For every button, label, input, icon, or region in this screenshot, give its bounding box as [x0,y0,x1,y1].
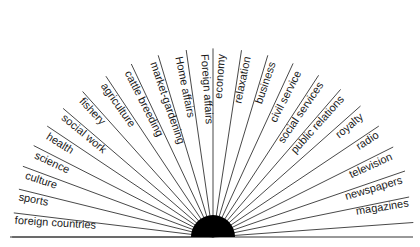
topic-label: culture [24,169,59,191]
topic-label: royalty [333,110,366,140]
half-disc-hub [191,215,235,237]
topic-label: relaxation [231,55,252,104]
topic-label: television [347,150,394,180]
topic-label: health [44,130,76,156]
topic-label: business [252,60,278,105]
topic-labels: foreign countriessportsculturesciencehea… [15,53,410,231]
topic-label: radio [354,129,381,152]
topic-label: foreign countries [15,214,97,231]
topic-label: economy [212,53,227,99]
topic-fan-diagram: foreign countriessportsculturesciencehea… [0,0,420,247]
topic-label: sports [18,190,50,208]
ray-line [213,223,413,238]
fan-diagram-canvas: foreign countriessportsculturesciencehea… [0,0,420,247]
topic-label: magazines [355,196,410,216]
